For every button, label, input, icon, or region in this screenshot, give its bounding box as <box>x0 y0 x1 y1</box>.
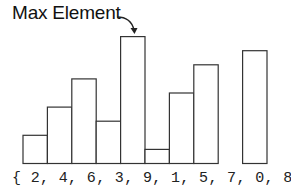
arrowhead-icon <box>131 28 138 34</box>
bar <box>145 149 169 163</box>
bar <box>72 79 96 164</box>
bar-max <box>121 37 145 164</box>
bar <box>243 51 267 164</box>
bar <box>194 65 218 164</box>
bar-diagram <box>0 0 291 191</box>
array-values-text: { 2, 4, 6, 3, 9, 1, 5, 7, 0, 8 } <box>12 170 291 187</box>
bar <box>96 121 120 163</box>
bars-group <box>23 37 267 164</box>
bar <box>23 135 47 163</box>
bar <box>169 93 193 164</box>
bar <box>47 107 71 163</box>
